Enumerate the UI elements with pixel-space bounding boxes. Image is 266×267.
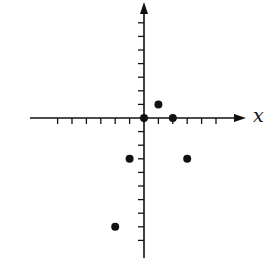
- y-axis-arrow-icon: [140, 2, 148, 14]
- x-axis-label: x: [253, 106, 264, 125]
- data-point: [111, 223, 119, 231]
- scatter-plot: [0, 0, 266, 267]
- data-point: [183, 155, 191, 163]
- data-point: [126, 155, 134, 163]
- data-point: [154, 100, 162, 108]
- data-point: [140, 114, 148, 122]
- x-axis-arrow-icon: [234, 114, 246, 122]
- data-point: [169, 114, 177, 122]
